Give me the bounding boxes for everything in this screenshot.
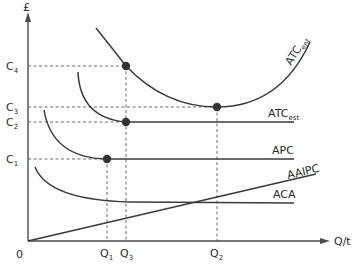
origin-label: 0 <box>16 248 23 261</box>
aca-label: ACA <box>273 188 296 201</box>
apc-label: APC <box>272 144 294 157</box>
x-tick-q3: Q3 <box>120 247 133 262</box>
y-tick-c4: C4 <box>6 60 19 75</box>
x-axis-label: Q/t <box>334 235 351 248</box>
apc-curve <box>44 110 294 159</box>
aaipc-label: AAIPC <box>286 162 321 182</box>
point-atc-ent-min <box>213 103 221 111</box>
point-atc-ent-q3 <box>122 62 130 70</box>
y-tick-c3: C3 <box>6 101 18 116</box>
y-tick-c1: C1 <box>6 153 18 168</box>
y-tick-c2: C2 <box>6 116 18 131</box>
x-tick-q1: Q1 <box>100 247 113 262</box>
point-apc-q1 <box>103 155 111 163</box>
x-axis-arrow-icon <box>320 238 330 244</box>
aaipc-line <box>28 174 316 241</box>
x-tick-q2: Q2 <box>210 247 223 262</box>
y-axis-label: £ <box>23 1 30 14</box>
point-atc-est-q3 <box>122 118 130 126</box>
aca-curve <box>35 167 294 203</box>
atc-est-label: ATCest <box>268 107 299 122</box>
cost-curves-diagram: £ Q/t 0 C4 C3 C2 C1 Q1 Q3 Q2 ATCent ATCe… <box>0 0 361 266</box>
